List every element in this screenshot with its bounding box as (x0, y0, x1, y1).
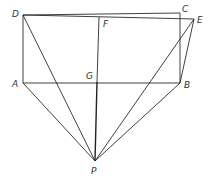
segment-EP (95, 19, 194, 161)
segment-BP (95, 83, 180, 161)
label-C: C (182, 4, 189, 14)
label-G: G (86, 71, 93, 81)
label-D: D (12, 9, 19, 19)
segment-DP (23, 15, 95, 161)
segment-GP (95, 82, 97, 161)
label-B: B (184, 80, 190, 90)
segment-AP (23, 83, 95, 161)
label-E: E (197, 15, 203, 25)
diagram-canvas: D C E F G A B P (0, 0, 211, 184)
geometry-diagram: D C E F G A B P (0, 0, 211, 184)
segment-DC (23, 13, 180, 15)
label-F: F (103, 19, 109, 29)
label-P: P (91, 166, 97, 176)
segment-FG (97, 17, 99, 82)
label-A: A (11, 79, 18, 89)
segment-DE (23, 15, 194, 19)
